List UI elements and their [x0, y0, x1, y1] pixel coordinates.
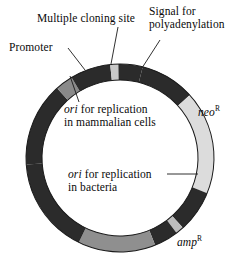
leader-line-signal [142, 40, 160, 68]
label-ori-mammalian: ori for replication in mammalian cells [64, 103, 156, 129]
label-promoter-text: Promoter [9, 41, 53, 53]
label-neo-text: neo [198, 106, 215, 118]
leader-line-promoter [68, 48, 85, 70]
leader-line-ori-mammalian [70, 76, 79, 102]
label-amp-text: amp [177, 236, 197, 248]
label-ori-bacteria-line1: ori for replication [68, 168, 152, 180]
label-neo-resistance: neoR [198, 102, 220, 119]
label-multiple-cloning-site: Multiple cloning site [37, 12, 135, 25]
plasmid-diagram: Multiple cloning site Signal for polyade… [0, 0, 244, 270]
label-ori-bacteria-italic: ori [68, 168, 82, 180]
label-amp-superscript: R [197, 234, 202, 243]
label-neo-superscript: R [215, 104, 220, 113]
label-ori-mammalian-rest: for replication [78, 103, 148, 115]
label-ori-bacteria-line2: in bacteria [68, 181, 152, 194]
label-ori-mammalian-line1: ori for replication [64, 103, 148, 115]
label-signal-line1: Signal for [149, 5, 196, 17]
label-ori-mammalian-line2: in mammalian cells [64, 116, 156, 129]
label-mcs-text: Multiple cloning site [37, 12, 135, 24]
label-signal-line2: polyadenylation [149, 18, 225, 31]
label-ori-bacteria: ori for replication in bacteria [68, 168, 152, 194]
label-signal-polyadenylation: Signal for polyadenylation [149, 5, 225, 31]
leader-line-mcs [111, 27, 118, 64]
label-ori-mammalian-italic: ori [64, 103, 78, 115]
label-ori-bacteria-rest: for replication [82, 168, 152, 180]
label-amp-resistance: ampR [177, 232, 202, 249]
label-promoter: Promoter [9, 41, 53, 54]
